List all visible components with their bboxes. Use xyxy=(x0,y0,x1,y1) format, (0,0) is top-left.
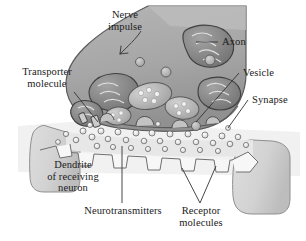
label-nerve-impulse: Nerve impulse xyxy=(101,9,149,32)
vesicle xyxy=(205,55,215,65)
mitochondrion xyxy=(198,77,241,110)
label-axon: Axon xyxy=(222,36,262,48)
label-receptor-molecules: Receptor molecules xyxy=(172,205,230,228)
label-dendrite: Dendrite of receiving neuron xyxy=(38,159,108,194)
vesicle xyxy=(161,67,171,77)
vesicle xyxy=(192,122,201,131)
label-neurotransmitters: Neurotransmitters xyxy=(80,205,166,217)
figure-synapse-diagram: Nerve impulse Transporter molecule Axon … xyxy=(0,0,306,241)
vesicle xyxy=(136,58,145,67)
label-synapse: Synapse xyxy=(252,94,306,106)
label-transporter-molecule: Transporter molecule xyxy=(10,66,84,89)
label-vesicle: Vesicle xyxy=(243,67,293,79)
